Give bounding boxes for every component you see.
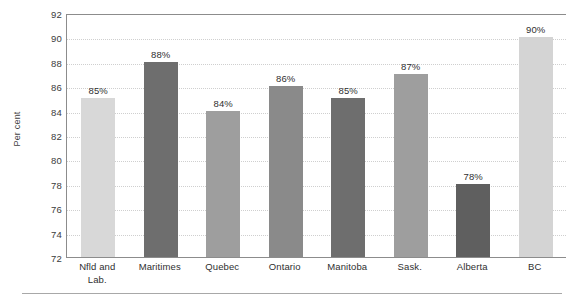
y-tick-label: 72 <box>28 253 62 264</box>
y-tick-label: 88 <box>28 57 62 68</box>
x-tick-label: Nfld andLab. <box>66 261 129 286</box>
x-tick-label-line2: Lab. <box>88 274 107 285</box>
bar-rect[interactable] <box>331 98 365 257</box>
plot-area: 85%88%84%86%85%87%78%90% <box>66 14 566 258</box>
bar-value-label: 84% <box>214 98 233 109</box>
x-tick-label: BC <box>504 261 567 274</box>
bar-value-label: 85% <box>339 85 358 96</box>
y-axis-title: Per cent <box>6 0 28 258</box>
y-tick-label: 90 <box>28 33 62 44</box>
x-tick-label: Manitoba <box>316 261 379 274</box>
bar-group[interactable]: 85% <box>81 98 115 257</box>
bar-value-label: 85% <box>89 85 108 96</box>
bar-group[interactable]: 88% <box>144 62 178 257</box>
y-tick-label: 78 <box>28 179 62 190</box>
y-tick-label: 82 <box>28 131 62 142</box>
x-tick-label: Alberta <box>441 261 504 274</box>
bar-value-label: 86% <box>276 73 295 84</box>
x-tick-label: Quebec <box>191 261 254 274</box>
x-tick-label: Sask. <box>379 261 442 274</box>
y-axis-tick-labels: 9290888684828078767472 <box>28 14 62 258</box>
bar-rect[interactable] <box>394 74 428 257</box>
bar-group[interactable]: 86% <box>269 86 303 257</box>
bar-value-label: 78% <box>464 171 483 182</box>
y-tick-label: 76 <box>28 204 62 215</box>
bar-value-label: 88% <box>151 49 170 60</box>
x-tick-label: Maritimes <box>129 261 192 274</box>
bar-group[interactable]: 78% <box>456 184 490 257</box>
x-axis-tick-labels: Nfld andLab.MaritimesQuebecOntarioManito… <box>66 261 566 295</box>
bars-layer: 85%88%84%86%85%87%78%90% <box>67 15 566 257</box>
bar-group[interactable]: 90% <box>519 37 553 257</box>
bar-rect[interactable] <box>81 98 115 257</box>
bar-group[interactable]: 87% <box>394 74 428 257</box>
bar-rect[interactable] <box>456 184 490 257</box>
bar-value-label: 87% <box>401 61 420 72</box>
y-axis-title-text: Per cent <box>12 111 22 146</box>
bar-group[interactable]: 84% <box>206 111 240 257</box>
bar-rect[interactable] <box>269 86 303 257</box>
y-tick-label: 74 <box>28 228 62 239</box>
y-tick-label: 84 <box>28 106 62 117</box>
y-tick-label: 92 <box>28 9 62 20</box>
bar-rect[interactable] <box>519 37 553 257</box>
bar-rect[interactable] <box>144 62 178 257</box>
bar-value-label: 90% <box>526 24 545 35</box>
bar-chart-figure: Per cent 9290888684828078767472 85%88%84… <box>0 0 574 304</box>
y-tick-label: 86 <box>28 82 62 93</box>
bar-rect[interactable] <box>206 111 240 257</box>
bar-group[interactable]: 85% <box>331 98 365 257</box>
bottom-divider-rule <box>22 293 562 294</box>
y-tick-label: 80 <box>28 155 62 166</box>
x-tick-label: Ontario <box>254 261 317 274</box>
